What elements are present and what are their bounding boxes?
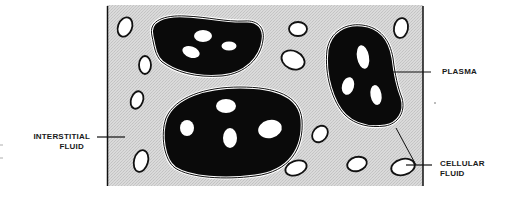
fluid-compartments-diagram bbox=[0, 0, 510, 200]
plasma-label: PLASMA bbox=[442, 67, 477, 77]
stray-dot bbox=[434, 102, 436, 104]
interstitial-label-line1: INTERSTITIAL bbox=[24, 132, 90, 142]
cell-top bbox=[151, 16, 263, 77]
cellular-label-line2: FLUID bbox=[440, 169, 485, 179]
cellular-label-line1: CELLULAR bbox=[440, 159, 485, 169]
interstitial-label-line2: FLUID bbox=[24, 142, 90, 152]
interstitial-fluid-label: INTERSTITIAL FLUID bbox=[24, 132, 90, 152]
cell-bottom bbox=[163, 87, 302, 178]
cellular-fluid-label: CELLULAR FLUID bbox=[440, 159, 485, 179]
